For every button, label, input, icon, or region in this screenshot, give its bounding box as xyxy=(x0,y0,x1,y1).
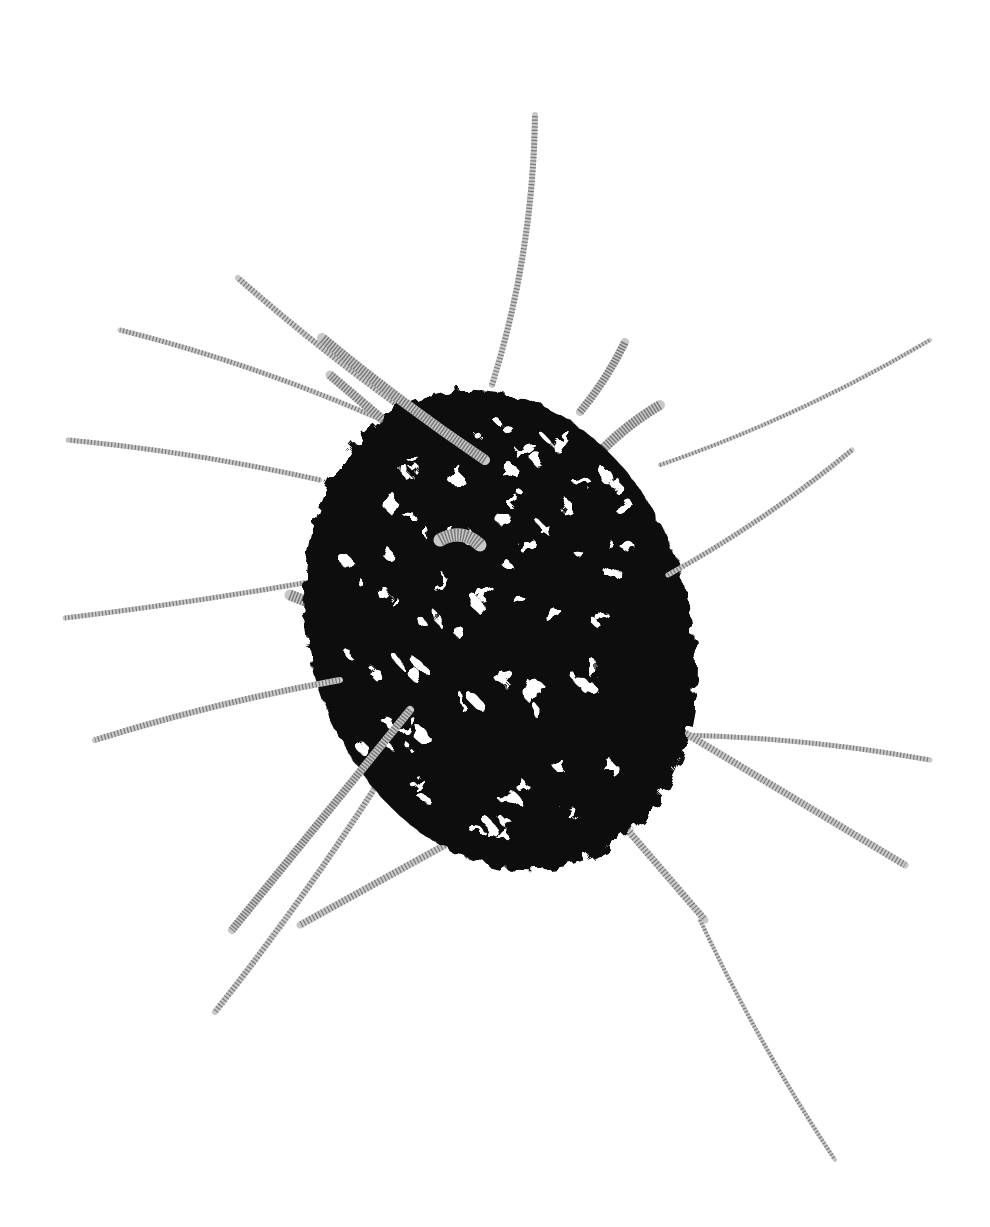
sculpture-photo xyxy=(0,0,990,1227)
